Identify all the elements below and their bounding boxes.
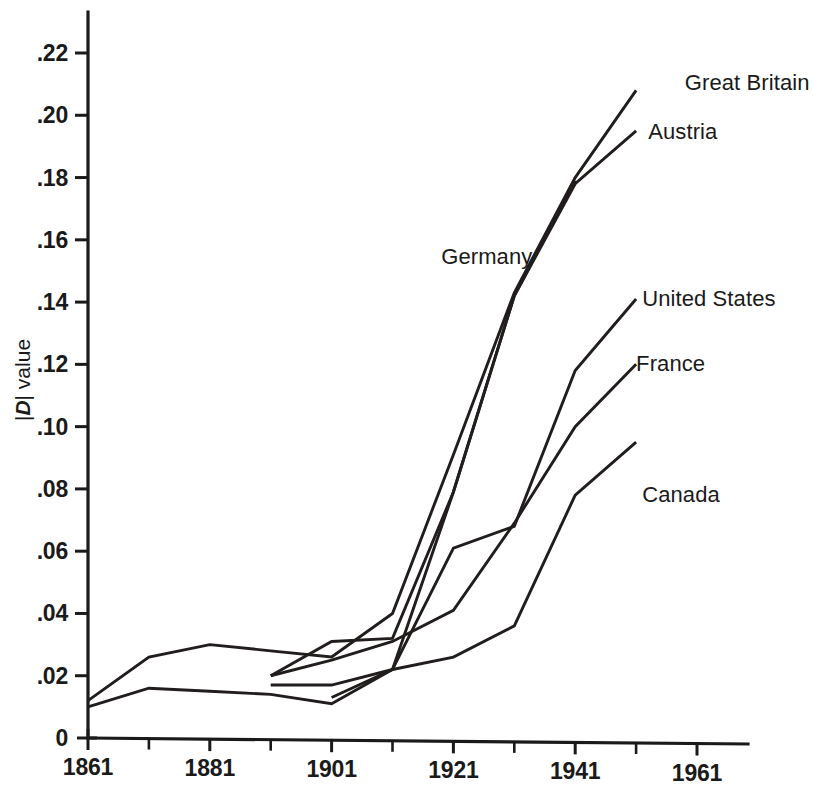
y-axis-tick-label-1: .02 xyxy=(0,662,68,689)
series-line-united-states xyxy=(88,299,636,707)
series-label-germany: Germany xyxy=(441,244,532,270)
x-axis-tick-label-4: 1941 xyxy=(550,758,600,785)
x-axis-tick-label-5: 1961 xyxy=(672,760,722,785)
series-line-great-britain xyxy=(88,90,636,700)
x-axis-tick-label-3: 1921 xyxy=(428,757,478,784)
series-line-canada xyxy=(271,442,636,685)
chart-series-lines xyxy=(88,90,636,707)
series-label-austria: Austria xyxy=(648,119,717,145)
x-axis-tick-label-0: 1861 xyxy=(63,754,113,781)
x-axis-tick-label-1: 1881 xyxy=(185,755,235,782)
y-axis-tick-label-4: .08 xyxy=(0,475,68,502)
y-axis-tick-label-10: .20 xyxy=(0,102,68,129)
x-axis-line xyxy=(88,738,748,744)
series-label-canada: Canada xyxy=(642,482,720,508)
series-line-austria xyxy=(271,131,636,676)
y-axis-tick-label-5: .10 xyxy=(0,413,68,440)
y-axis-tick-label-6: .12 xyxy=(0,351,68,378)
y-axis-tick-label-7: .14 xyxy=(0,289,68,316)
y-axis-title-bar-right: | xyxy=(11,395,34,400)
y-axis-tick-label-2: .04 xyxy=(0,600,68,627)
y-axis-tick-label-9: .18 xyxy=(0,164,68,191)
series-label-france: France xyxy=(636,351,705,377)
chart-axes xyxy=(75,12,748,756)
x-axis-tick-label-2: 1901 xyxy=(306,756,356,783)
y-axis-tick-label-3: .06 xyxy=(0,538,68,565)
y-axis-tick-label-0: 0 xyxy=(0,725,68,752)
series-line-france xyxy=(271,364,636,675)
series-label-great-britain: Great Britain xyxy=(685,70,810,96)
y-axis-tick-label-11: .22 xyxy=(0,40,68,67)
series-label-united-states: United States xyxy=(642,286,775,312)
y-axis-tick-label-8: .16 xyxy=(0,226,68,253)
